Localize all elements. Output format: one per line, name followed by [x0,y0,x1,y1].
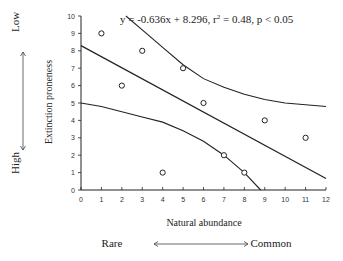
data-point [262,118,267,123]
data-point [140,48,145,53]
data-point [201,100,206,105]
y-tick-label: 8 [71,47,75,54]
y-tick-label: 2 [71,152,75,159]
y-tick-label: 4 [71,117,75,124]
x-tick-label: 10 [281,196,289,203]
y-tick-label: 3 [71,134,75,141]
y-axis-label: Extinction proneness [43,60,54,144]
y-tick-label: 9 [71,30,75,37]
data-point [99,31,104,36]
x-tick-label: 4 [161,196,165,203]
upper-confidence-curve [126,16,326,106]
data-point [160,170,165,175]
data-point [303,135,308,140]
x-tick-label: 7 [222,196,226,203]
data-point [180,66,185,71]
x-tick-label: 5 [181,196,185,203]
scatter-chart: 0123456789101112012345678910 y = -0.636x… [0,0,343,261]
y-tick-label: 0 [71,187,75,194]
data-point [242,170,247,175]
x-rare-label: Rare [102,237,123,249]
y-tick-label: 6 [71,82,75,89]
x-tick-label: 2 [120,196,124,203]
y-tick-label: 1 [71,169,75,176]
regression-line [81,46,326,179]
x-tick-label: 0 [79,196,83,203]
regression-annotation: y = -0.636x + 8.296, r2 = 0.48, p < 0.05 [120,13,294,25]
lower-confidence-curve [81,103,261,190]
data-point [119,83,124,88]
x-tick-label: 1 [99,196,103,203]
double-arrow-vertical-icon [21,52,26,150]
y-tick-label: 7 [71,65,75,72]
double-arrow-horizontal-icon [154,242,248,247]
x-tick-label: 8 [242,196,246,203]
x-tick-label: 9 [263,196,267,203]
x-tick-label: 3 [140,196,144,203]
y-tick-label: 5 [71,100,75,107]
data-point [221,153,226,158]
x-common-label: Common [251,237,292,249]
y-low-label: Low [9,12,21,32]
y-tick-label: 10 [67,13,75,20]
data-points [99,31,308,175]
y-high-label: High [9,152,21,175]
x-tick-label: 6 [202,196,206,203]
x-axis-label: Natural abundance [166,217,242,228]
x-tick-label: 11 [302,196,309,203]
x-tick-label: 12 [322,196,330,203]
